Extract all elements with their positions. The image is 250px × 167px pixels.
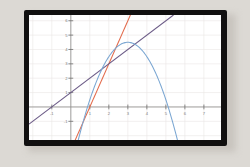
x-tick-label: 1 bbox=[89, 111, 92, 116]
x-tick-label: 3 bbox=[127, 111, 130, 116]
x-tick-label: 2 bbox=[108, 111, 111, 116]
chart-svg: -11234567-1123456 bbox=[29, 15, 221, 140]
x-tick-label: 5 bbox=[165, 111, 168, 116]
x-tick-label: 4 bbox=[146, 111, 149, 116]
figure-root: -11234567-1123456 bbox=[0, 0, 250, 167]
x-tick-label: 6 bbox=[184, 111, 187, 116]
chart-frame: -11234567-1123456 bbox=[24, 10, 227, 146]
x-tick-label: -1 bbox=[50, 111, 54, 116]
x-tick-label: 7 bbox=[203, 111, 206, 116]
plot-area: -11234567-1123456 bbox=[29, 15, 221, 140]
